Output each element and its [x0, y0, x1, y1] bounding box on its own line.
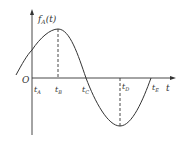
origin-label: O — [22, 75, 30, 85]
y-axis-arrow-icon — [30, 9, 34, 15]
y-axis-label: fA(t) — [37, 14, 57, 25]
x-axis-arrow-icon — [170, 76, 176, 80]
diagram-svg: fA(t) O t tA tB tC tD tE — [0, 0, 184, 145]
tick-label-tE: tE — [152, 83, 159, 93]
tick-label-tD: tD — [122, 82, 129, 92]
tick-label-tA: tA — [34, 85, 41, 95]
waveform-curve — [16, 29, 151, 126]
x-axis-label: t — [166, 83, 170, 93]
waveform-diagram: fA(t) O t tA tB tC tD tE — [0, 0, 184, 145]
tick-label-tB: tB — [55, 85, 62, 95]
tick-label-tC: tC — [82, 85, 89, 95]
